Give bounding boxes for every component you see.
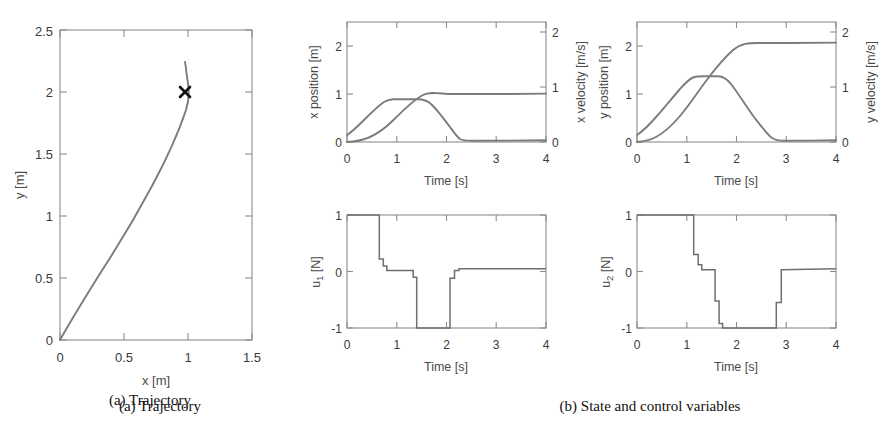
u2-x-ticks: [637, 215, 836, 328]
y-state-xtick-3: 3: [783, 152, 790, 166]
panel-x-state: 0 1 2 0 1 2 0 1 2 3 4 Time [s] x positio…: [300, 0, 600, 200]
trajectory-ytick-3: 1.5: [35, 147, 53, 162]
u1-step-curve: [347, 215, 546, 328]
trajectory-ytick-5: 2.5: [35, 24, 53, 39]
u1-yaxis-label-unit: [N]: [309, 256, 323, 275]
trajectory-chart-svg: 0 0.5 1 1.5 2 2.5 0 0.5 1 1.5 x [m] y [m…: [0, 0, 300, 400]
trajectory-xaxis-label: x [m]: [142, 373, 170, 388]
trajectory-y-ticks: [60, 30, 252, 340]
u1-x-ticks: [347, 215, 546, 328]
y-state-xtick-0: 0: [634, 152, 641, 166]
x-state-xtick-4: 4: [543, 152, 550, 166]
x-state-chart-svg: 0 1 2 0 1 2 0 1 2 3 4 Time [s] x positio…: [300, 0, 600, 200]
u2-xtick-2: 2: [733, 338, 740, 352]
panel-u1-control: -1 0 1 0 1 2 3 4 Time [s] u1 [N]: [300, 200, 600, 400]
x-state-right-yaxis-label: x velocity [m/s]: [574, 41, 588, 123]
u2-chart-svg: -1 0 1 0 1 2 3 4 Time [s] u2 [N]: [590, 200, 891, 400]
u2-xaxis-label: Time [s]: [714, 360, 758, 374]
trajectory-plot-box: [60, 30, 252, 340]
x-state-plot-box: [347, 22, 546, 142]
u1-ytick-0: 0: [335, 266, 342, 280]
u1-chart-svg: -1 0 1 0 1 2 3 4 Time [s] u1 [N]: [300, 200, 600, 400]
u2-step-curve: [637, 215, 836, 328]
u2-yaxis-label-base: u: [599, 281, 613, 288]
caption-b-state-control: (b) State and control variables: [440, 398, 860, 415]
trajectory-ytick-0: 0: [46, 333, 53, 348]
u2-xtick-1: 1: [683, 338, 690, 352]
trajectory-ytick-4: 2: [46, 85, 53, 100]
x-state-right-ticks: [540, 32, 546, 142]
u1-plot-box: [347, 215, 546, 328]
trajectory-ytick-1: 0.5: [35, 271, 53, 286]
u1-yaxis-label: u1 [N]: [309, 256, 325, 288]
x-state-right-ytick-1: 1: [552, 81, 559, 95]
u1-ytick-1: 1: [335, 209, 342, 223]
svg-text:u1 [N]: u1 [N]: [309, 256, 325, 288]
u2-y-ticks: [637, 215, 836, 328]
u1-y-ticks: [347, 215, 546, 328]
u1-xtick-1: 1: [393, 338, 400, 352]
caption-a-trajectory: (a) Trajectory: [60, 398, 260, 415]
y-state-yaxis-label: y position [m]: [597, 45, 611, 119]
x-state-yaxis-label: x position [m]: [307, 45, 321, 119]
trajectory-xtick-2: 1: [184, 350, 191, 365]
x-state-xtick-0: 0: [344, 152, 351, 166]
y-state-plot-box: [637, 22, 836, 142]
y-state-xaxis-label: Time [s]: [714, 174, 758, 188]
x-state-xaxis-label: Time [s]: [424, 174, 468, 188]
x-state-ytick-2: 2: [335, 40, 342, 54]
x-state-right-ytick-0: 0: [552, 136, 559, 150]
u2-ytick-neg1: -1: [621, 322, 632, 336]
u2-xtick-4: 4: [833, 338, 840, 352]
u1-xtick-3: 3: [493, 338, 500, 352]
x-state-xtick-3: 3: [493, 152, 500, 166]
x-state-ytick-1: 1: [335, 88, 342, 102]
x-state-xtick-2: 2: [443, 152, 450, 166]
y-state-xtick-1: 1: [683, 152, 690, 166]
y-state-ytick-1: 1: [625, 88, 632, 102]
figure-root: 0 0.5 1 1.5 2 2.5 0 0.5 1 1.5 x [m] y [m…: [0, 0, 891, 443]
y-state-right-ytick-2: 2: [842, 26, 849, 40]
y-state-ytick-0: 0: [625, 136, 632, 150]
y-state-right-ytick-1: 1: [842, 81, 849, 95]
y-state-ytick-2: 2: [625, 40, 632, 54]
panel-y-state: 0 1 2 0 1 2 0 1 2 3 4 Time [s] y positio…: [590, 0, 891, 200]
trajectory-yaxis-label: y [m]: [12, 171, 27, 199]
trajectory-x-ticks: [60, 30, 252, 340]
u1-ytick-neg1: -1: [331, 322, 342, 336]
x-state-left-ticks: [347, 46, 353, 142]
u2-xtick-0: 0: [634, 338, 641, 352]
x-state-x-ticks: [347, 22, 546, 142]
svg-text:u2 [N]: u2 [N]: [599, 256, 615, 288]
y-state-chart-svg: 0 1 2 0 1 2 0 1 2 3 4 Time [s] y positio…: [590, 0, 891, 200]
y-state-right-ytick-0: 0: [842, 136, 849, 150]
u1-yaxis-label-base: u: [309, 281, 323, 288]
x-state-ytick-0: 0: [335, 136, 342, 150]
y-velocity-curve: [637, 76, 836, 141]
y-state-left-ticks: [637, 46, 643, 142]
trajectory-path: [60, 62, 189, 340]
x-state-xtick-1: 1: [393, 152, 400, 166]
trajectory-xtick-3: 1.5: [243, 350, 261, 365]
u1-xtick-4: 4: [543, 338, 550, 352]
y-state-x-ticks: [637, 22, 836, 142]
x-position-curve: [347, 93, 546, 142]
u1-xtick-0: 0: [344, 338, 351, 352]
x-state-right-ytick-2: 2: [552, 26, 559, 40]
u2-yaxis-label-unit: [N]: [599, 256, 613, 275]
y-state-right-yaxis-label: y velocity [m/s]: [864, 41, 878, 123]
u1-xaxis-label: Time [s]: [424, 360, 468, 374]
trajectory-xtick-0: 0: [56, 350, 63, 365]
x-velocity-curve: [347, 99, 546, 141]
u2-plot-box: [637, 215, 836, 328]
y-state-xtick-2: 2: [733, 152, 740, 166]
trajectory-ytick-2: 1: [46, 209, 53, 224]
u2-ytick-1: 1: [625, 209, 632, 223]
u2-xtick-3: 3: [783, 338, 790, 352]
u2-yaxis-label: u2 [N]: [599, 256, 615, 288]
y-state-right-ticks: [830, 32, 836, 142]
panel-u2-control: -1 0 1 0 1 2 3 4 Time [s] u2 [N]: [590, 200, 891, 400]
y-state-xtick-4: 4: [833, 152, 840, 166]
u1-xtick-2: 2: [443, 338, 450, 352]
trajectory-xtick-1: 0.5: [115, 350, 133, 365]
